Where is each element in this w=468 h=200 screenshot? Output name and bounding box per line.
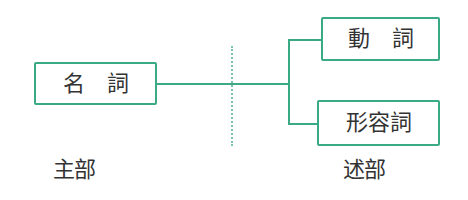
noun-box: 名 詞 [34, 62, 157, 105]
verb-box: 動 詞 [321, 17, 440, 61]
noun-box-label: 名 詞 [63, 73, 129, 95]
adjective-box: 形容詞 [317, 100, 440, 146]
subject-section-label: 主部 [53, 159, 95, 181]
connector-branch-top [288, 39, 322, 41]
connector-branch-vertical [288, 39, 290, 125]
adjective-box-label: 形容詞 [346, 112, 412, 134]
connector-branch-bottom [288, 123, 318, 125]
predicate-section-label: 述部 [343, 159, 385, 181]
verb-box-label: 動 詞 [348, 28, 414, 50]
subject-predicate-divider [231, 46, 233, 146]
connector-main [157, 83, 290, 85]
